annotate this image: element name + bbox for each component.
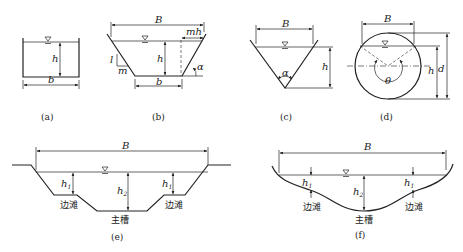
- h2-label: h2: [117, 185, 127, 197]
- channel-sections-figure: h b (a) B mh h l m α: [0, 0, 463, 252]
- mh-label: mh: [186, 26, 202, 37]
- bottom-width-label: b: [156, 76, 162, 87]
- slope-run-label: m: [118, 65, 127, 76]
- water-surface-icon: [102, 167, 108, 174]
- right-floodplain-label: 边滩: [405, 201, 423, 212]
- angle-label: α: [282, 67, 289, 78]
- panel-c-triangular: B h α (c): [250, 18, 333, 122]
- diameter-label: d: [438, 63, 444, 74]
- top-width-label: B: [281, 18, 289, 29]
- panel-f-natural: B h1 h2 h1 边滩 边滩 主槽 (f): [272, 141, 453, 240]
- panel-b-trapezoidal: B mh h l m α b (b): [107, 14, 206, 122]
- top-width-label: B: [383, 13, 391, 24]
- main-channel-label: 主槽: [111, 214, 129, 225]
- left-h1-label: h1: [61, 178, 71, 190]
- caption-b: (b): [152, 112, 165, 122]
- water-surface-icon: [142, 36, 148, 43]
- top-width-label: B: [363, 141, 371, 152]
- depth-label: h: [157, 53, 163, 64]
- water-surface-icon: [282, 42, 288, 49]
- panel-e-compound: B h1 h2 h1 边滩 边滩 主槽 (e): [12, 140, 231, 242]
- caption-c: (c): [280, 112, 292, 122]
- panel-a-rectangular: h b (a): [23, 37, 79, 122]
- right-h1-label: h1: [404, 177, 414, 189]
- slope-vertical-label: l: [110, 54, 113, 65]
- caption-d: (d): [380, 112, 393, 122]
- caption-e: (e): [111, 232, 123, 242]
- water-surface-icon: [382, 41, 388, 48]
- top-width-label: B: [121, 140, 129, 151]
- left-floodplain-label: 边滩: [303, 201, 321, 212]
- angle-arc: [193, 68, 196, 76]
- right-h1-label: h1: [162, 178, 172, 190]
- water-surface-icon: [343, 170, 349, 177]
- depth-label: h: [322, 61, 328, 72]
- angle-label: θ: [385, 75, 391, 86]
- h2-label: h2: [353, 186, 363, 198]
- depth-label: h: [428, 65, 434, 76]
- caption-f: (f): [355, 230, 365, 240]
- left-floodplain-label: 边滩: [60, 199, 78, 210]
- caption-a: (a): [41, 112, 53, 122]
- natural-channel-outline: [272, 164, 453, 211]
- depth-label: h: [52, 53, 58, 64]
- water-surface-icon: [45, 37, 51, 44]
- right-floodplain-label: 边滩: [165, 199, 183, 210]
- panel-d-circular: θ B h d (d): [347, 13, 450, 122]
- left-h1-label: h1: [302, 177, 312, 189]
- width-label: b: [48, 74, 54, 85]
- angle-label: α: [197, 61, 204, 72]
- main-channel-label: 主槽: [355, 214, 373, 225]
- top-width-label: B: [154, 14, 162, 25]
